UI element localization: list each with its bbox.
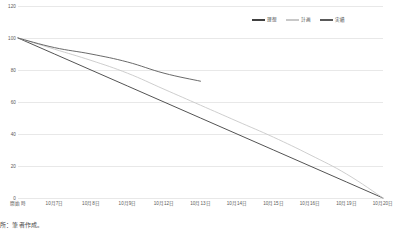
y-tick-label: 60 [0, 100, 16, 105]
series-lines [18, 6, 383, 198]
legend-swatch-icon [320, 19, 333, 20]
legend-entry: 理想 [252, 17, 277, 23]
y-tick-label: 40 [0, 132, 16, 137]
legend-swatch-icon [286, 19, 299, 20]
legend-label: 実績 [335, 17, 345, 23]
x-tick-label: 10月20日 [360, 200, 395, 207]
legend-label: 理想 [267, 17, 277, 23]
series-line [18, 38, 383, 198]
burndown-chart-figure: 020406080100120 開始時10月7日10月8日10月9日10月12日… [0, 0, 395, 236]
chart-legend: 理想計画実績 [252, 15, 345, 25]
y-axis: 020406080100120 [0, 6, 16, 198]
series-line [18, 38, 201, 81]
gridline [18, 198, 383, 199]
legend-swatch-icon [252, 19, 265, 20]
legend-label: 計画 [301, 17, 311, 23]
legend-entry: 計画 [286, 17, 311, 23]
y-tick-label: 20 [0, 164, 16, 169]
y-tick-label: 120 [0, 4, 16, 9]
source-caption: 所：筆者作成。 [0, 221, 43, 230]
plot-area [18, 6, 383, 198]
x-axis: 開始時10月7日10月8日10月9日10月12日10月13日10月14日10月1… [18, 200, 383, 212]
y-tick-label: 100 [0, 36, 16, 41]
y-tick-label: 80 [0, 68, 16, 73]
legend-entry: 実績 [320, 17, 345, 23]
